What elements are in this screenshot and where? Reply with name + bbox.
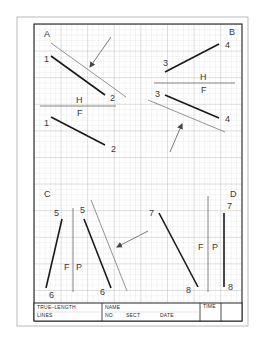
point-label-3-front: 3: [155, 89, 160, 99]
point-label-5-profile: 5: [80, 205, 85, 215]
title-block: TRUE–LENGTH LINES NAME NO. SECT DATE TIM…: [34, 303, 242, 321]
point-label-3-top: 3: [163, 58, 168, 68]
drawing-sheet: A 1 2 H F 1 2 B 3 4 H F 3 4 C 5 6 F P 5: [0, 0, 263, 344]
point-label-6-profile: 6: [100, 287, 105, 297]
quadrant-label-b: B: [229, 27, 235, 37]
point-label-1-top: 1: [44, 54, 49, 64]
point-label-1-front: 1: [44, 118, 49, 128]
point-label-5-front: 5: [54, 208, 59, 218]
point-label-4-top: 4: [225, 40, 230, 50]
point-label-8-profile: 8: [228, 282, 233, 292]
point-label-4-front: 4: [225, 114, 230, 124]
fold-label-p-c: P: [76, 262, 82, 272]
fold-label-f-a: F: [77, 108, 83, 118]
title-block-subtitle: LINES: [37, 312, 53, 318]
section-field-label: SECT: [126, 312, 140, 318]
fold-label-h-b: H: [200, 72, 207, 82]
fold-label-f-b: F: [201, 85, 207, 95]
title-block-title: TRUE–LENGTH: [37, 304, 76, 310]
fold-label-f-c: F: [64, 262, 70, 272]
quadrant-label-c: C: [44, 189, 51, 199]
fold-label-h-a: H: [76, 95, 83, 105]
name-field-label: NAME: [105, 304, 121, 310]
number-field-label: NO.: [105, 312, 115, 318]
time-field-label: TIME: [203, 303, 216, 309]
fold-label-f-d: F: [198, 242, 204, 252]
fold-label-p-d: P: [212, 242, 218, 252]
point-label-7-front: 7: [149, 208, 154, 218]
point-label-7-profile: 7: [227, 201, 232, 211]
point-label-2-top: 2: [110, 93, 115, 103]
point-label-2-front: 2: [111, 144, 116, 154]
quadrant-label-a: A: [44, 29, 50, 39]
point-label-6-front: 6: [49, 290, 54, 300]
point-label-8-front: 8: [186, 285, 191, 295]
quadrant-label-d: D: [230, 189, 237, 199]
date-field-label: DATE: [160, 312, 174, 318]
